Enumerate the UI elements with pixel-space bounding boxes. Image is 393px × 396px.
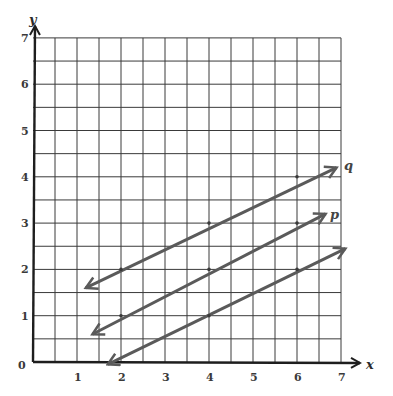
x-tick-label: 5 — [250, 371, 258, 384]
x-axis-label: x — [365, 357, 374, 372]
x-tick-label: 1 — [74, 371, 82, 384]
line-point — [119, 268, 123, 272]
x-tick-label: 3 — [162, 371, 170, 384]
x-tick-label: 7 — [338, 371, 346, 384]
y-tick-label: 7 — [21, 32, 29, 45]
y-tick-label: 2 — [21, 263, 29, 276]
y-axis-label: y — [28, 12, 38, 27]
y-tick-label: 6 — [21, 78, 29, 91]
y-tick-labels: 1234567 — [21, 32, 29, 323]
origin-label: 0 — [18, 359, 26, 372]
y-tick-label: 1 — [21, 310, 29, 323]
line-point — [207, 221, 211, 225]
x-tick-label: 6 — [294, 371, 302, 384]
y-tick-label: 5 — [21, 125, 29, 138]
x-tick-label: 4 — [206, 371, 214, 384]
y-tick-label: 3 — [21, 217, 29, 230]
line-point — [295, 175, 299, 179]
x-tick-labels: 1234567 — [74, 371, 346, 384]
line-point — [207, 314, 211, 318]
line-point — [295, 221, 299, 225]
x-axis — [33, 362, 360, 363]
grid-lines — [33, 38, 341, 362]
line-point — [119, 314, 123, 318]
line-point — [295, 268, 299, 272]
x-tick-label: 2 — [118, 371, 126, 384]
y-tick-label: 4 — [21, 171, 29, 184]
line-point — [207, 268, 211, 272]
line-q-label: q — [344, 158, 353, 173]
data-lines — [86, 168, 346, 365]
y-axis — [33, 26, 35, 362]
coordinate-graph: 1234567 1234567 0 x y q p — [0, 0, 393, 396]
line-p-label: p — [330, 207, 339, 222]
